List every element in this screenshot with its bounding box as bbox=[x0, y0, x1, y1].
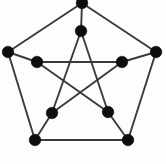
graph-node-inner-left bbox=[31, 56, 43, 68]
graph-edge-outer-top-to-outer-right bbox=[82, 3, 156, 52]
graph-node-inner-bottom-left bbox=[46, 107, 58, 119]
graph-node-inner-right bbox=[116, 56, 128, 68]
petersen-graph-figure bbox=[0, 0, 166, 164]
graph-edge-outer-bottom-left-to-outer-left bbox=[8, 52, 35, 140]
graph-node-outer-top bbox=[76, 0, 88, 9]
graph-node-outer-bottom-left bbox=[29, 134, 41, 146]
graph-edge-inner-top-to-inner-bottom-right bbox=[81, 31, 108, 112]
graph-node-inner-bottom-right bbox=[102, 106, 114, 118]
graph-node-inner-top bbox=[75, 25, 87, 37]
graph-edge-inner-bottom-left-to-inner-top bbox=[52, 31, 81, 113]
graph-node-outer-bottom-right bbox=[122, 134, 134, 146]
graph-edge-outer-left-to-outer-top bbox=[8, 3, 82, 52]
graph-edge-inner-right-to-inner-bottom-left bbox=[52, 62, 122, 113]
graph-node-outer-right bbox=[150, 46, 162, 58]
graph-canvas bbox=[0, 0, 166, 164]
graph-edge-inner-bottom-right-to-inner-left bbox=[37, 62, 108, 112]
edge-layer bbox=[8, 3, 156, 140]
graph-edge-outer-right-to-outer-bottom-right bbox=[128, 52, 156, 140]
graph-node-outer-left bbox=[2, 46, 14, 58]
